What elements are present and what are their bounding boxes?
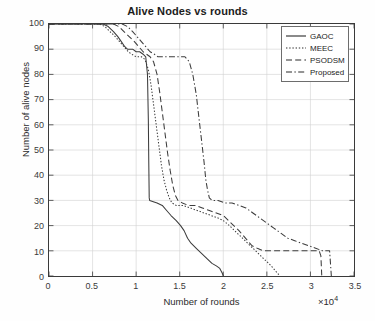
legend-item-proposed[interactable]: Proposed (285, 66, 346, 78)
y-tick-label: 100 (18, 18, 44, 28)
y-axis-ticks: 0102030405060708090100 (14, 23, 44, 277)
legend-item-gaoc[interactable]: GAOC (285, 30, 346, 42)
x-axis-label: Number of rounds (48, 296, 355, 307)
x-axis-multiplier-exponent: 4 (334, 295, 338, 302)
legend-line-sample (285, 43, 307, 53)
legend-label: Proposed (310, 68, 344, 77)
x-tick-label: 1.5 (163, 281, 197, 291)
x-axis-multiplier-base: ×10 (318, 296, 334, 307)
legend-line-sample (285, 31, 307, 41)
y-tick-label: 60 (18, 120, 44, 130)
y-tick-label: 50 (18, 145, 44, 155)
legend-label: PSODSM (310, 56, 345, 65)
y-tick-label: 90 (18, 43, 44, 53)
legend-item-psodsm[interactable]: PSODSM (285, 54, 346, 66)
legend-item-meec[interactable]: MEEC (285, 42, 346, 54)
y-tick-label: 70 (18, 94, 44, 104)
x-tick-label: 3 (294, 281, 328, 291)
legend-line-sample (285, 55, 307, 65)
x-axis-multiplier: ×104 (318, 295, 338, 307)
chart-title: Alive Nodes vs rounds (0, 5, 375, 17)
x-tick-label: 0.5 (75, 281, 109, 291)
x-tick-label: 1 (119, 281, 153, 291)
y-tick-label: 40 (18, 170, 44, 180)
legend: GAOCMEECPSODSMProposed (281, 26, 349, 82)
y-tick-label: 30 (18, 196, 44, 206)
x-tick-label: 3.5 (338, 281, 372, 291)
x-tick-label: 2 (206, 281, 240, 291)
figure-container: Alive Nodes vs rounds Number of alive no… (0, 0, 375, 321)
legend-label: GAOC (310, 32, 334, 41)
legend-label: MEEC (310, 44, 333, 53)
legend-line-sample (285, 67, 307, 77)
y-tick-label: 80 (18, 69, 44, 79)
y-tick-label: 10 (18, 247, 44, 257)
x-tick-label: 0 (31, 281, 65, 291)
x-axis-ticks: 00.511.522.533.5 (48, 281, 355, 295)
x-tick-label: 2.5 (250, 281, 284, 291)
y-tick-label: 20 (18, 221, 44, 231)
